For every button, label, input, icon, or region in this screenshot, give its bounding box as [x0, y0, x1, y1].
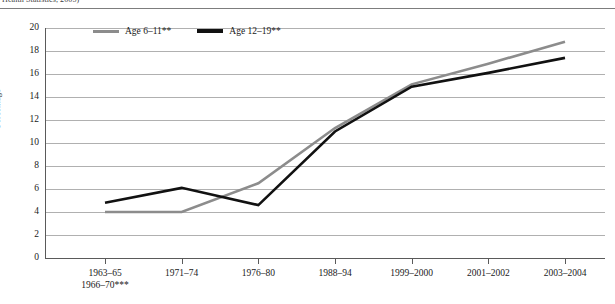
legend-item-1: Age 12–19**: [197, 26, 280, 36]
chart-legend: Age 6–11**Age 12–19**: [93, 26, 281, 36]
y-tick-label-0: 0: [15, 253, 39, 263]
y-tick-label-8: 8: [15, 161, 39, 171]
legend-item-0: Age 6–11**: [93, 26, 171, 36]
legend-swatch-icon: [197, 29, 223, 33]
x-tick-label-line: 1966–70***: [45, 280, 165, 292]
series-layer: [45, 28, 605, 259]
series-line-1: [105, 58, 565, 205]
y-tick-label-12: 12: [15, 115, 39, 125]
legend-label: Age 12–19**: [229, 26, 280, 36]
y-tick-label-20: 20: [15, 23, 39, 33]
legend-label: Age 6–11**: [125, 26, 171, 36]
y-tick-label-18: 18: [15, 46, 39, 56]
y-tick-label-14: 14: [15, 92, 39, 102]
y-tick-label-10: 10: [15, 138, 39, 148]
top-caption-clipped: Health Statistics, 2005): [2, 0, 302, 5]
x-tick-label-line: 2003–2004: [505, 268, 615, 280]
y-axis-title: Percentage: [0, 89, 2, 128]
y-tick-label-16: 16: [15, 69, 39, 79]
y-tick-label-2: 2: [15, 230, 39, 240]
legend-swatch-icon: [93, 30, 119, 33]
chart-figure: Health Statistics, 2005) Percentage 0246…: [0, 0, 615, 304]
series-line-0: [105, 42, 565, 212]
y-tick-label-4: 4: [15, 207, 39, 217]
header-rule: [0, 8, 615, 9]
y-tick-label-6: 6: [15, 184, 39, 194]
x-tick-label-6: 2003–2004: [505, 268, 615, 280]
